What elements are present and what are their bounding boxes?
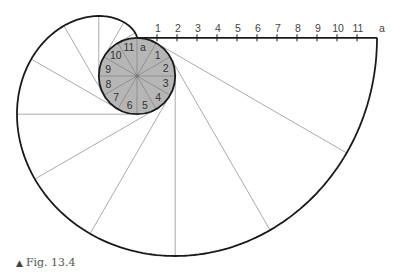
- circle-point-label: 2: [163, 62, 169, 74]
- scale-label: 8: [295, 22, 301, 34]
- circle-point-label: 11: [124, 41, 135, 53]
- tangent-line: [35, 109, 156, 179]
- scale-label: 11: [353, 22, 364, 34]
- circle-point-label: 10: [110, 49, 122, 61]
- tangent-construction-lines: [17, 16, 347, 256]
- scale-label: 2: [175, 22, 181, 34]
- tangent-line: [64, 26, 104, 95]
- tangent-line: [170, 57, 270, 230]
- caption-text: Fig. 13.4: [26, 256, 76, 269]
- involute-diagram: 1234567891011a a1234567891011: [0, 0, 394, 278]
- scale-label: 5: [235, 22, 241, 34]
- circle-point-label: 8: [105, 78, 111, 90]
- scale-label: 6: [255, 22, 261, 34]
- circle-point-label: a: [140, 41, 146, 53]
- scale-label: 3: [195, 22, 201, 34]
- tangent-line: [90, 95, 170, 234]
- circle-point-label: 4: [155, 91, 161, 103]
- scale-label: 7: [275, 22, 281, 34]
- center-point: [135, 74, 139, 78]
- circle-point-label: 9: [105, 63, 111, 75]
- scale-label: 4: [215, 22, 221, 34]
- scale-label: a: [379, 22, 385, 34]
- triangle-marker-icon: ▲: [16, 258, 23, 268]
- circle-point-label: 6: [127, 99, 133, 111]
- circle-point-label: 7: [113, 91, 119, 103]
- circle-point-label: 1: [155, 49, 161, 61]
- figure-caption: ▲ Fig. 13.4: [16, 256, 76, 269]
- scale-label: 1: [155, 22, 161, 34]
- scale-label: 9: [315, 22, 321, 34]
- circle-point-label: 3: [163, 77, 169, 89]
- scale-label: 10: [332, 22, 344, 34]
- involute-curve: [17, 16, 377, 256]
- tangent-line: [156, 43, 347, 153]
- circle-point-label: 5: [142, 99, 148, 111]
- unrolled-circumference-scale: 1234567891011a: [137, 22, 385, 42]
